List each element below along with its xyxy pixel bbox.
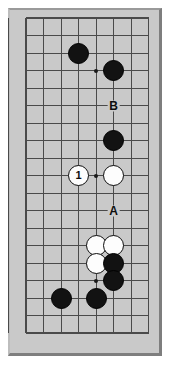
black-stone-bottom-left[interactable] — [51, 288, 72, 309]
black-stone-lower-right[interactable] — [103, 270, 124, 291]
black-stone-upper-left[interactable] — [68, 43, 89, 64]
black-stone-bottom-middle[interactable] — [86, 288, 107, 309]
star-point-upper — [94, 69, 98, 73]
point-label-a[interactable]: A — [107, 205, 120, 216]
point-label-b[interactable]: B — [107, 100, 120, 111]
stone-move-number: 1 — [75, 170, 81, 181]
star-point-middle — [94, 174, 98, 178]
star-point-lower — [94, 279, 98, 283]
go-diagram: 1 BA — [0, 0, 172, 371]
white-stone-center[interactable] — [103, 165, 124, 186]
white-stone-move-1[interactable]: 1 — [68, 165, 89, 186]
black-stone-upper-right[interactable] — [103, 60, 124, 81]
stones-layer: 1 BA — [0, 0, 172, 371]
black-stone-upper-middle[interactable] — [103, 130, 124, 151]
